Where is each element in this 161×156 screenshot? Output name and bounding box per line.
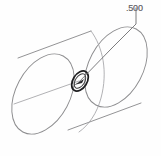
dimension-label: .500 xyxy=(126,3,143,13)
cylinder-drawing-svg xyxy=(0,0,161,156)
leader-vertical-segment xyxy=(112,8,136,48)
leader-diagonal-segment xyxy=(78,48,112,83)
drawing-canvas: .500 xyxy=(0,0,161,156)
far-end-ellipse xyxy=(72,16,160,117)
interior-rim-contour xyxy=(79,31,104,132)
